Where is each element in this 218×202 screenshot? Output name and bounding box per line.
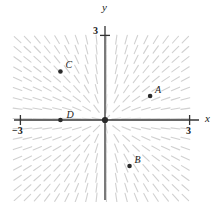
slope-mark	[33, 128, 42, 129]
slope-mark	[34, 194, 40, 201]
slope-mark	[122, 118, 131, 119]
slope-mark	[152, 165, 159, 171]
slope-mark	[75, 174, 79, 182]
slope-mark	[75, 45, 78, 53]
slope-mark	[152, 97, 160, 100]
slope-mark	[85, 65, 88, 73]
slope-mark	[53, 97, 61, 101]
slope-mark	[162, 56, 168, 62]
slope-mark	[96, 154, 98, 163]
slope-mark	[163, 184, 169, 191]
slope-mark	[34, 46, 40, 53]
slope-mark	[116, 35, 117, 44]
slope-mark	[83, 127, 91, 131]
slope-mark	[54, 184, 59, 191]
slope-mark	[74, 145, 80, 151]
slope-mark	[24, 57, 31, 63]
slope-mark	[144, 36, 148, 44]
slope-mark	[162, 146, 170, 150]
slope-mark	[53, 137, 61, 140]
slope-mark	[162, 175, 169, 181]
slope-mark	[54, 56, 60, 63]
slope-mark	[124, 65, 127, 73]
slope-mark	[172, 77, 180, 82]
slope-field-figure: y x 3 −3 3 A B C D	[0, 0, 218, 202]
slope-mark	[64, 164, 70, 171]
slope-mark	[23, 77, 31, 81]
slope-mark	[122, 107, 130, 111]
slope-mark	[23, 128, 32, 129]
slope-mark	[171, 147, 179, 150]
slope-mark	[23, 147, 31, 150]
slope-mark	[142, 136, 150, 140]
slope-mark	[43, 137, 52, 140]
slope-mark	[113, 126, 120, 131]
slope-mark	[134, 65, 139, 73]
slope-mark	[162, 156, 170, 161]
slope-mark	[23, 156, 31, 160]
slope-mark	[172, 46, 178, 52]
slope-mark	[171, 128, 180, 129]
slope-mark	[83, 135, 89, 141]
slope-mark	[162, 77, 169, 82]
slope-mark	[171, 98, 180, 101]
slope-mark	[171, 137, 180, 139]
slope-mark	[34, 165, 41, 170]
slope-mark	[43, 87, 51, 91]
slope-mark	[134, 35, 137, 43]
slope-mark	[96, 173, 97, 182]
slope-mark	[63, 136, 71, 140]
slope-mark	[75, 164, 80, 172]
slope-mark	[14, 185, 21, 191]
slope-mark	[24, 67, 32, 72]
slope-mark	[85, 55, 88, 64]
x-tick-label-3: 3	[186, 126, 191, 136]
slope-mark	[24, 36, 30, 42]
slope-mark	[23, 108, 32, 109]
x-tick-label-minus-3: −3	[12, 126, 23, 136]
slope-mark	[125, 174, 128, 182]
slope-mark	[43, 156, 51, 161]
slope-mark	[53, 108, 62, 110]
slope-mark	[95, 85, 97, 94]
slope-mark	[161, 128, 170, 129]
slope-mark	[75, 35, 78, 44]
slope-mark	[114, 135, 119, 143]
slope-mark	[115, 65, 117, 74]
slope-mark	[55, 36, 60, 44]
slope-mark	[161, 137, 170, 140]
slope-mark	[14, 195, 21, 201]
slope-mark	[182, 166, 190, 171]
slope-mark	[64, 76, 70, 83]
slope-mark	[96, 193, 97, 202]
slope-mark	[65, 184, 69, 192]
slope-mark	[92, 118, 101, 119]
slope-mark	[13, 156, 21, 160]
slope-mark	[115, 85, 118, 93]
slope-field-group	[13, 35, 190, 202]
slope-mark	[172, 67, 179, 72]
slope-mark	[134, 174, 138, 182]
slope-mark	[122, 127, 130, 130]
slope-mark	[23, 87, 31, 90]
slope-mark	[34, 185, 40, 191]
slope-mark	[73, 136, 81, 141]
slope-mark	[106, 104, 107, 113]
point-B	[127, 164, 132, 169]
point-origin	[102, 117, 108, 123]
slope-mark	[163, 46, 169, 53]
slope-mark	[173, 36, 179, 43]
slope-mark	[84, 85, 89, 93]
slope-mark	[34, 175, 41, 181]
slope-mark	[106, 134, 107, 143]
slope-mark	[33, 156, 41, 160]
slope-mark	[172, 156, 180, 160]
plot-canvas	[0, 0, 218, 202]
slope-mark	[44, 66, 51, 72]
slope-mark	[132, 96, 139, 101]
slope-mark	[44, 56, 50, 63]
slope-mark	[124, 85, 129, 92]
slope-mark	[123, 135, 130, 141]
slope-mark	[13, 98, 22, 100]
slope-mark	[123, 96, 129, 102]
